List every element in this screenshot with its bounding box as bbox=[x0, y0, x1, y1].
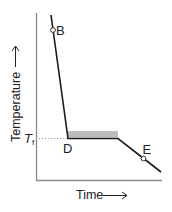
cooling-curve-svg: B D E Tf Temperature Time bbox=[0, 0, 172, 212]
freezing-temp-subscript: f bbox=[32, 138, 35, 147]
cooling-curve-figure: B D E Tf Temperature Time bbox=[0, 0, 172, 212]
y-axis-label-group: Temperature bbox=[9, 46, 23, 142]
point-b-label: B bbox=[56, 23, 65, 38]
point-b-marker bbox=[51, 28, 56, 33]
point-e-label: E bbox=[143, 142, 152, 157]
plateau-shaded-band bbox=[68, 131, 118, 138]
freezing-temp-label: Tf bbox=[24, 131, 35, 147]
x-axis-label: Time bbox=[76, 188, 103, 202]
y-axis-label: Temperature bbox=[9, 72, 23, 142]
point-e-marker bbox=[141, 156, 146, 161]
point-d-label: D bbox=[63, 141, 72, 156]
